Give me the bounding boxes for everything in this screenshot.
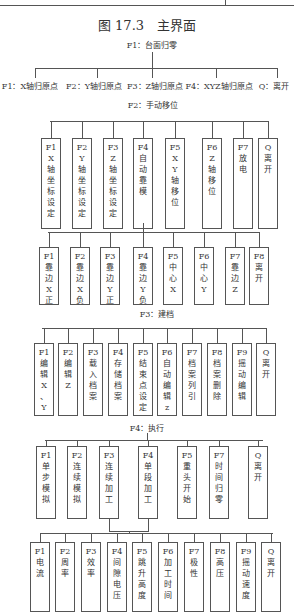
box-char: F4 [134, 251, 152, 262]
connector [152, 52, 153, 69]
box-char: F9 [233, 347, 251, 358]
menu-box: F5跳升高度 [132, 542, 152, 612]
box-char: 案 [109, 391, 127, 402]
connector [35, 68, 278, 69]
box-char: 周 [56, 557, 74, 568]
box-char: Y [195, 284, 213, 295]
box-char: F6 [195, 251, 213, 262]
box-char: 拟 [37, 494, 55, 505]
connector [68, 328, 69, 343]
connector [217, 328, 218, 343]
menu-box: F1电流 [30, 542, 50, 612]
menu-box: F4存储档案 [108, 343, 128, 416]
connector [97, 68, 98, 78]
box-char: 编 [59, 358, 77, 369]
menu-box: F1靠边X正 [39, 247, 59, 305]
menu-box: F6中心Y [194, 247, 214, 305]
box-char: 心 [164, 273, 182, 284]
box-char: 位 [203, 186, 221, 197]
box-char: 跳 [133, 557, 151, 568]
box-char: 靠 [134, 262, 152, 273]
menu-box: F4间隙电压 [107, 542, 127, 612]
box-char: 正 [101, 295, 119, 305]
connector [148, 518, 149, 532]
box-char: 续 [68, 472, 86, 483]
box-char: 动 [233, 369, 251, 380]
box-char: F8 [211, 546, 229, 557]
connector [51, 121, 52, 138]
box-char: F7 [185, 546, 203, 557]
box-char: F3 [104, 142, 122, 153]
box-char: 间 [108, 557, 126, 568]
box-char: 单 [37, 461, 55, 472]
box-char: 边 [71, 273, 89, 284]
connector [168, 533, 169, 542]
node-table-zero: F1：台面归零 [127, 39, 178, 50]
node-x-home: F1：X轴归原点 [2, 80, 58, 91]
menu-box: F7靠边Z [225, 247, 245, 305]
box-char: 度 [133, 590, 151, 601]
box-char: Y [134, 284, 152, 295]
menu-box: F2Y轴坐标设定 [72, 138, 92, 229]
box-char: F2 [56, 546, 74, 557]
box-char: 标 [73, 186, 91, 197]
box-char: 删 [208, 380, 226, 391]
node-quit: Q：离开 [259, 80, 290, 91]
box-char: 速 [237, 579, 255, 590]
menu-box: F6Z轴移位 [202, 138, 222, 229]
box-char: 辑 [233, 391, 251, 402]
box-char: Y [73, 153, 91, 164]
connector [242, 328, 243, 343]
box-char: 轴 [104, 164, 122, 175]
box-char: 设 [104, 197, 122, 208]
box-char: 连 [68, 461, 86, 472]
box-char: F6 [203, 142, 221, 153]
menu-box: Q离开 [261, 542, 281, 612]
menu-box: F9摇动编辑 [232, 343, 252, 416]
box-char: 坐 [104, 175, 122, 186]
box-char: 间 [210, 472, 228, 483]
connector [143, 121, 144, 138]
box-char: 开 [257, 369, 275, 380]
box-char: 升 [133, 568, 151, 579]
box-char: 标 [104, 186, 122, 197]
box-char: F3 [82, 546, 100, 557]
box-char: 模 [134, 186, 152, 197]
menu-box: F5中心X [163, 247, 183, 305]
menu-box: F3靠边Y正 [100, 247, 120, 305]
box-char: 载 [84, 358, 102, 369]
menu-box: F5重头开始 [177, 446, 197, 519]
box-char: 电 [234, 164, 252, 175]
connector [246, 533, 247, 542]
box-char: 移 [203, 175, 221, 186]
box-char: 自 [134, 153, 152, 164]
box-char: 储 [109, 369, 127, 380]
box-char: 引 [183, 391, 201, 402]
menu-box: F4自动靠模 [133, 138, 153, 229]
box-char: 工 [100, 494, 118, 505]
box-char: 靠 [40, 262, 58, 273]
node-manual-move: F2：手动移位 [128, 99, 179, 110]
box-char: 加 [100, 483, 118, 494]
connector [271, 533, 272, 542]
menu-box: F7时间归零 [209, 446, 229, 519]
connector [268, 121, 269, 138]
connector [91, 533, 92, 542]
box-char: 极 [185, 557, 203, 568]
box-char: 归 [210, 483, 228, 494]
box-char: Q [262, 546, 280, 557]
box-char: X [40, 284, 58, 295]
box-char: F1 [37, 450, 55, 461]
box-char: 压 [211, 568, 229, 579]
box-char: X [42, 153, 60, 164]
connector [204, 232, 205, 247]
box-char: 正 [40, 295, 58, 305]
box-char: F1 [35, 347, 53, 358]
box-char: 加 [139, 483, 157, 494]
box-char: 标 [42, 186, 60, 197]
node-archive: F3：建档 [140, 308, 175, 319]
top-border-line [0, 5, 294, 6]
box-char: F4 [109, 347, 127, 358]
box-char: Q [259, 142, 277, 153]
connector [80, 232, 81, 247]
